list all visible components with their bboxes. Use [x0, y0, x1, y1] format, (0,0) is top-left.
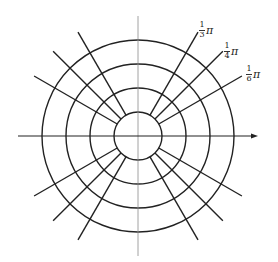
denominator: 3 — [199, 31, 204, 39]
arrowhead-icon — [251, 134, 258, 139]
denominator: 4 — [224, 52, 229, 60]
numerator: 1 — [199, 21, 204, 29]
label-sixth-pi: 1 6 π — [246, 65, 260, 83]
numerator: 1 — [224, 42, 229, 50]
polar-grid-diagram — [0, 0, 278, 262]
radial-line — [34, 76, 117, 124]
radial-line — [78, 157, 126, 240]
pi-symbol: π — [206, 24, 213, 37]
label-quarter-pi: 1 4 π — [224, 42, 238, 60]
pi-symbol: π — [253, 68, 260, 81]
fraction: 1 6 — [246, 65, 252, 83]
radial-line — [159, 76, 242, 124]
fraction: 1 4 — [224, 42, 230, 60]
radial-line — [159, 148, 242, 196]
denominator: 6 — [246, 75, 251, 83]
radial-line — [150, 32, 198, 115]
radial-line — [78, 32, 126, 115]
radial-line — [155, 153, 223, 221]
fraction: 1 3 — [199, 21, 205, 39]
numerator: 1 — [246, 65, 251, 73]
radial-line — [53, 51, 121, 119]
label-third-pi: 1 3 π — [199, 21, 213, 39]
radial-line — [150, 157, 198, 240]
radial-line — [34, 148, 117, 196]
pi-symbol: π — [231, 45, 238, 58]
radial-line — [155, 51, 223, 119]
radial-line — [53, 153, 121, 221]
